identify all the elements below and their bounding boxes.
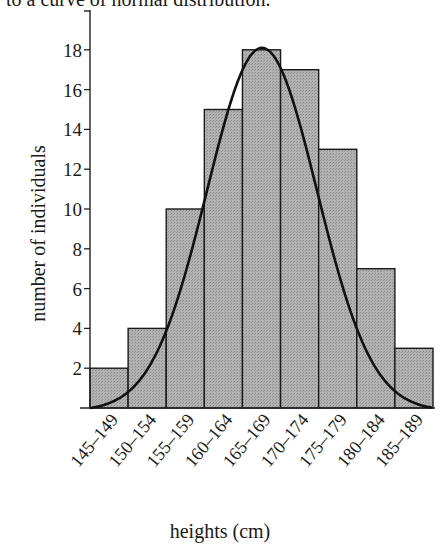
histogram-chart: 24681012141618 145–149150–154155–159160–…: [0, 0, 440, 548]
histogram-bar: [319, 149, 357, 408]
histogram-bar: [242, 50, 280, 408]
x-axis-ticks: 145–149150–154155–159160–164165–169170–1…: [66, 410, 427, 471]
histogram-bar: [395, 348, 433, 408]
y-tick-label: 18: [63, 40, 82, 61]
histogram-bars: [90, 50, 433, 408]
y-axis-ticks: 24681012141618: [63, 40, 90, 379]
y-tick-label: 2: [73, 358, 83, 379]
y-tick-label: 12: [63, 159, 82, 180]
y-tick-label: 6: [73, 279, 83, 300]
y-tick-label: 4: [73, 318, 83, 339]
y-tick-label: 14: [63, 119, 83, 140]
y-tick-label: 16: [63, 80, 82, 101]
histogram-bar: [204, 110, 242, 409]
y-tick-label: 10: [63, 199, 82, 220]
histogram-bar: [166, 209, 204, 408]
y-tick-label: 8: [73, 239, 83, 260]
